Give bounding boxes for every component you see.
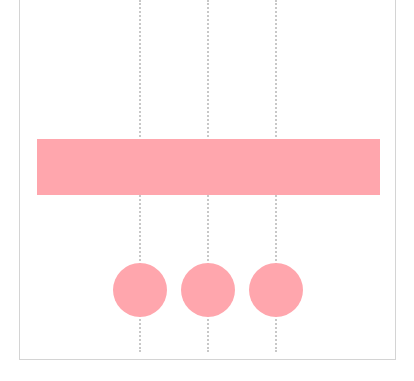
circle-shape xyxy=(113,263,167,317)
horizontal-bar xyxy=(37,139,380,195)
circle-shape xyxy=(181,263,235,317)
circle-shape xyxy=(249,263,303,317)
